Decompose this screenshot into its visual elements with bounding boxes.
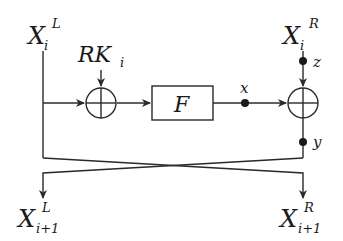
round-key-label: RK i (77, 42, 124, 70)
svg-text:L: L (51, 16, 61, 31)
input-right-label: X i R (281, 16, 319, 53)
svg-text:RK: RK (77, 42, 113, 67)
svg-text:X: X (26, 22, 46, 50)
svg-text:R: R (308, 16, 319, 31)
svg-text:X: X (16, 205, 36, 233)
svg-text:i: i (120, 55, 124, 70)
feistel-diagram: X i L RK i X i R F x z (0, 0, 343, 241)
svg-text:F: F (173, 92, 190, 117)
xor-1-icon (86, 88, 116, 118)
svg-text:i+1: i+1 (298, 221, 321, 236)
probe-z-dot (299, 57, 307, 65)
svg-text:L: L (41, 200, 51, 215)
svg-text:i: i (300, 38, 304, 53)
probe-y-dot (299, 138, 307, 146)
svg-text:R: R (303, 200, 314, 215)
probe-x-dot (241, 99, 249, 107)
input-left-label: X i L (26, 16, 61, 53)
cross-left-to-right (43, 158, 303, 198)
svg-text:i: i (44, 38, 48, 53)
cross-right-to-left (43, 158, 303, 198)
output-left-label: X i+1 L (16, 200, 59, 236)
svg-text:X: X (281, 22, 301, 50)
svg-text:i+1: i+1 (36, 221, 59, 236)
xor-2-icon (288, 88, 318, 118)
probe-x-label: x (240, 79, 249, 97)
output-right-label: X i+1 R (278, 200, 321, 236)
probe-y-label: y (312, 133, 322, 151)
probe-z-label: z (312, 53, 321, 71)
svg-text:X: X (278, 205, 298, 233)
function-f-box: F (152, 86, 213, 120)
